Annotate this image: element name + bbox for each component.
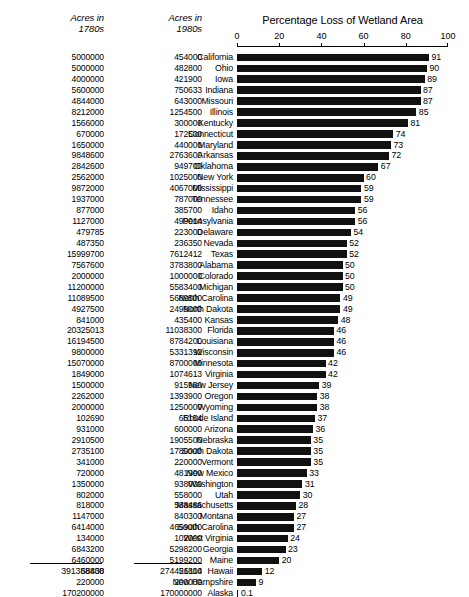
chart-title: Percentage Loss of Wetland Area xyxy=(237,14,448,26)
state-label: Alabama xyxy=(120,260,233,271)
bar-track: 50 xyxy=(237,271,448,282)
bar-track: 35 xyxy=(237,435,448,446)
bar xyxy=(237,174,364,182)
x-axis-tick-label: 40 xyxy=(316,31,326,41)
table-row: 75676003783800Alabama50 xyxy=(0,260,469,271)
bar-value-label: 73 xyxy=(394,140,404,151)
cell-acres-1780s: 20325013 xyxy=(0,325,104,336)
state-label: Kansas xyxy=(120,315,233,326)
cell-acres-1780s: 9872000 xyxy=(0,183,104,194)
table-row: 68432005298200Georgia23 xyxy=(0,544,469,555)
bar-track: 81 xyxy=(237,118,448,129)
bar-track: 52 xyxy=(237,249,448,260)
state-label: Tennessee xyxy=(120,194,233,205)
cell-acres-1780s: 2000000 xyxy=(0,271,104,282)
state-label: New Mexico xyxy=(120,468,233,479)
bar-value-label: 28 xyxy=(299,500,309,511)
bar xyxy=(237,425,313,433)
table-row: 720000481900New Mexico33 xyxy=(0,468,469,479)
cell-acres-1780s: 5000000 xyxy=(0,52,104,63)
bar-track: 31 xyxy=(237,479,448,490)
table-row: 4000000421900Iowa89 xyxy=(0,74,469,85)
bar-track: 28 xyxy=(237,500,448,511)
bar-value-label: 39 xyxy=(322,380,332,391)
table-row: 1127000499014Pennsylvania56 xyxy=(0,216,469,227)
bar-value-label: 56 xyxy=(358,205,368,216)
state-label: Indiana xyxy=(120,85,233,96)
bar-value-label: 54 xyxy=(353,227,363,238)
table-row: 82120001254500Illinois85 xyxy=(0,107,469,118)
bar-track: 56 xyxy=(237,205,448,216)
bar-value-label: 56 xyxy=(358,216,368,227)
bar xyxy=(237,502,296,510)
cell-acres-1780s: 2262000 xyxy=(0,391,104,402)
column-header-acres-1780s: Acres in 1780s xyxy=(0,12,104,34)
bar-value-label: 38 xyxy=(320,391,330,402)
bar xyxy=(237,240,347,248)
bar xyxy=(237,86,421,94)
bar-track: 60 xyxy=(237,172,448,183)
cell-acres-1780s: 2000000 xyxy=(0,402,104,413)
bar-track: 90 xyxy=(237,63,448,74)
bar xyxy=(237,491,300,499)
bar xyxy=(237,185,361,193)
bar-track: 56 xyxy=(237,216,448,227)
cell-acres-1780s: 2910500 xyxy=(0,435,104,446)
table-row: 64140004659000South Carolina27 xyxy=(0,522,469,533)
table-row: 27351001780000South Dakota35 xyxy=(0,446,469,457)
table-row: 10269065154Rhode Island37 xyxy=(0,413,469,424)
bar-track: 37 xyxy=(237,413,448,424)
bar-track: 49 xyxy=(237,304,448,315)
bar-track: 39 xyxy=(237,380,448,391)
table-row: 29105001905500Nebraska35 xyxy=(0,435,469,446)
cell-acres-1780s: 1650000 xyxy=(0,140,104,151)
bar xyxy=(237,371,326,379)
state-label: Texas xyxy=(120,249,233,260)
bar xyxy=(237,458,311,466)
state-label: Michigan xyxy=(120,282,233,293)
cell-acres-1780s: 818000 xyxy=(0,500,104,511)
table-row: 802000558000Utah30 xyxy=(0,490,469,501)
bar-track: 42 xyxy=(237,369,448,380)
cell-acres-1780s: 170200000 xyxy=(0,588,104,597)
bar-value-label: 46 xyxy=(337,347,347,358)
state-label: Vermont xyxy=(120,457,233,468)
bar-value-label: 46 xyxy=(337,325,347,336)
state-label: Iowa xyxy=(120,74,233,85)
cell-acres-1780s: 8212000 xyxy=(0,107,104,118)
cell-acres-1780s: 1500000 xyxy=(0,380,104,391)
state-label: Wyoming xyxy=(120,402,233,413)
bar-track: 42 xyxy=(237,358,448,369)
bar xyxy=(237,436,311,444)
bar-value-label: 52 xyxy=(349,249,359,260)
bar-value-label: 27 xyxy=(296,522,306,533)
table-row: 150700008700000Minnesota42 xyxy=(0,358,469,369)
bar-track: 87 xyxy=(237,85,448,96)
bar-track: 46 xyxy=(237,347,448,358)
bar xyxy=(237,404,317,412)
state-label: Colorado xyxy=(120,271,233,282)
bar xyxy=(237,513,294,521)
bar-track: 67 xyxy=(237,161,448,172)
table-row: 110895005689500North Carolina49 xyxy=(0,293,469,304)
cell-acres-1780s: 720000 xyxy=(0,468,104,479)
bar xyxy=(237,360,326,368)
state-label: Maryland xyxy=(120,140,233,151)
state-label: Kentucky xyxy=(120,118,233,129)
cell-acres-1780s: 670000 xyxy=(0,129,104,140)
cell-acres-1780s: 2842600 xyxy=(0,161,104,172)
bar xyxy=(237,546,286,554)
table-row: 487350236350Nevada52 xyxy=(0,238,469,249)
bar xyxy=(237,97,421,105)
bar xyxy=(237,447,311,455)
bar-track: 49 xyxy=(237,293,448,304)
bar-track: 27 xyxy=(237,511,448,522)
bar-track: 59 xyxy=(237,194,448,205)
total-rule-1980s xyxy=(134,563,202,564)
table-row: 20000001000000Colorado50 xyxy=(0,271,469,282)
bar xyxy=(237,65,427,73)
table-row: 1650000440000Maryland73 xyxy=(0,140,469,151)
cell-acres-1780s: 5000000 xyxy=(0,63,104,74)
bar-value-label: 37 xyxy=(318,413,328,424)
table-row: 5000000454000California91 xyxy=(0,52,469,63)
